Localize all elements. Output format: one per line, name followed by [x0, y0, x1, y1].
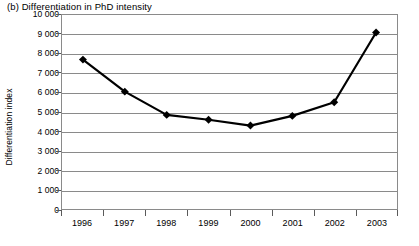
y-axis-tick-label: 6 000	[18, 88, 59, 97]
x-axis-tick-label: 2003	[367, 218, 387, 229]
x-axis-tick-mark	[272, 210, 273, 216]
x-axis-tick-mark	[397, 210, 398, 216]
x-axis-tick-label: 2002	[325, 218, 345, 229]
y-axis-tick-label: 3 000	[18, 147, 59, 156]
y-axis-title-label: Differentiation index	[4, 88, 14, 165]
data-point-marker	[205, 116, 213, 124]
x-axis-tick-mark	[103, 210, 104, 216]
y-axis-tick-label: 7 000	[18, 68, 59, 77]
x-axis-tick-label: 2001	[283, 218, 303, 229]
y-axis-tick-label: 9 000	[18, 29, 59, 38]
x-axis-tick-label: 1997	[114, 218, 134, 229]
data-series-line	[62, 15, 397, 209]
y-axis-tick-labels: 01 0002 0003 0004 0005 0006 0007 0008 00…	[18, 14, 59, 210]
x-axis-tick-mark	[61, 210, 62, 216]
y-axis-tick-label: 10 000	[18, 10, 59, 19]
y-axis-title: Differentiation index	[2, 62, 16, 192]
plot-area	[61, 14, 398, 210]
x-axis-tick-labels: 19961997199819992000200120022003	[61, 218, 398, 232]
x-axis-tick-label: 2000	[240, 218, 260, 229]
x-axis-tick-label: 1998	[156, 218, 176, 229]
chart-figure: (b) Differentiation in PhD intensity Dif…	[0, 0, 419, 246]
y-axis-tick-label: 8 000	[18, 49, 59, 58]
x-axis-tick-mark	[314, 210, 315, 216]
x-axis-tick-label: 1999	[198, 218, 218, 229]
x-axis-tick-label: 1996	[72, 218, 92, 229]
data-point-marker	[246, 122, 254, 130]
series-line	[83, 32, 376, 125]
y-axis-tick-label: 2 000	[18, 166, 59, 175]
x-axis-tick-marks	[61, 210, 398, 216]
y-axis-tick-label: 1 000	[18, 186, 59, 195]
x-axis-tick-mark	[230, 210, 231, 216]
x-axis-tick-mark	[356, 210, 357, 216]
x-axis-tick-mark	[187, 210, 188, 216]
y-axis-tick-label: 0	[18, 206, 59, 215]
y-axis-tick-label: 4 000	[18, 127, 59, 136]
data-point-marker	[288, 112, 296, 120]
x-axis-tick-mark	[145, 210, 146, 216]
y-axis-tick-label: 5 000	[18, 108, 59, 117]
